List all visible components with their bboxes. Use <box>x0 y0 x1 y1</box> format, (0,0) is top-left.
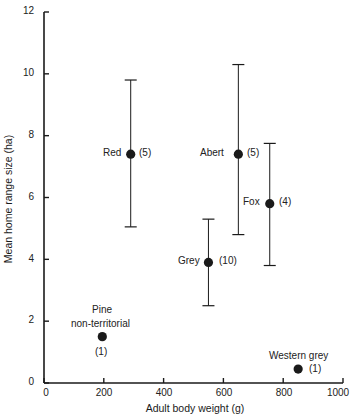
label-red-n: (5) <box>139 147 151 158</box>
x-axis-title: Adult body weight (g) <box>0 402 356 414</box>
label-pine-n: (1) <box>95 346 107 357</box>
x-tick-800: 800 <box>264 387 304 398</box>
label-abert-name: Abert <box>200 147 224 158</box>
y-tick-0: 0 <box>14 376 34 387</box>
data-points <box>98 150 303 374</box>
label-pine-line1: Pine <box>92 304 112 315</box>
data-point <box>98 332 107 341</box>
y-tick-8: 8 <box>14 129 34 140</box>
data-point <box>234 150 243 159</box>
x-tick-600: 600 <box>204 387 244 398</box>
label-fox-name: Fox <box>243 196 260 207</box>
label-fox-n: (4) <box>279 196 291 207</box>
data-point <box>126 150 135 159</box>
y-tick-6: 6 <box>14 191 34 202</box>
label-red-name: Red <box>103 147 121 158</box>
x-tick-400: 400 <box>144 387 184 398</box>
y-axis-title: Mean home range size (ha) <box>2 129 14 269</box>
y-tick-12: 12 <box>14 5 34 16</box>
label-western-grey-n: (1) <box>309 363 321 374</box>
label-abert-n: (5) <box>247 147 259 158</box>
error-bars <box>125 65 276 306</box>
y-tick-2: 2 <box>14 314 34 325</box>
label-western-grey-name: Western grey <box>269 350 328 361</box>
data-point <box>265 199 274 208</box>
y-tick-4: 4 <box>14 253 34 264</box>
data-point <box>204 258 213 267</box>
label-grey-name: Grey <box>178 255 200 266</box>
y-tick-10: 10 <box>14 67 34 78</box>
label-pine-line2: non-territorial <box>71 318 130 329</box>
label-grey-n: (10) <box>219 255 237 266</box>
x-tick-0: 0 <box>26 387 66 398</box>
data-point <box>294 364 303 373</box>
x-tick-1000: 1000 <box>318 387 356 398</box>
x-tick-200: 200 <box>84 387 124 398</box>
scatter-chart: 0 2 4 6 8 10 12 0 200 400 600 800 1000 A… <box>0 0 356 417</box>
